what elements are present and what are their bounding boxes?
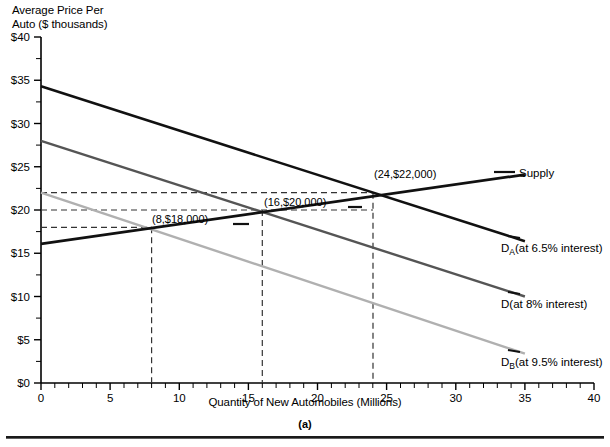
y-tick-label: $35 xyxy=(11,74,30,86)
series-label-supply: Supply xyxy=(519,167,554,179)
y-tick-label: $30 xyxy=(11,118,30,130)
x-axis-title: Quantity of New Automobiles (Millions) xyxy=(0,396,610,408)
y-tick-label: $0 xyxy=(17,377,30,389)
y-tick-label: $5 xyxy=(17,334,30,346)
leader-d xyxy=(508,292,520,294)
y-tick-label: $40 xyxy=(11,31,30,43)
y-axis-major-ticks xyxy=(34,37,41,383)
chart-plot-area: $0 $5 $10 $15 $20 $25 $30 $35 $40 xyxy=(0,0,610,447)
annotation-8-18000: (8,$18,000) xyxy=(152,213,208,225)
series-label-da: DA(at 6.5% interest) xyxy=(501,242,603,257)
series-label-db: DB(at 9.5% interest) xyxy=(501,356,603,371)
figure-panel-a: Average Price Per Auto ($ thousands) xyxy=(0,0,610,447)
series-label-d: D(at 8% interest) xyxy=(501,298,587,310)
y-tick-label: $15 xyxy=(11,247,30,259)
y-tick-label: $10 xyxy=(11,291,30,303)
data-point-annotations: (8,$18,000) (16,$20,000) (24,$22,000) xyxy=(152,168,436,225)
series-curves xyxy=(41,86,525,353)
annotation-24-22000: (24,$22,000) xyxy=(374,168,436,180)
y-tick-label: $20 xyxy=(11,204,30,216)
y-tick-label: $25 xyxy=(11,161,30,173)
bottom-divider xyxy=(6,436,604,439)
y-axis-tick-labels: $0 $5 $10 $15 $20 $25 $30 $35 $40 xyxy=(11,31,30,389)
leader-da xyxy=(508,236,520,238)
panel-caption: (a) xyxy=(0,418,610,430)
series-labels: Supply DA(at 6.5% interest) D(at 8% inte… xyxy=(501,167,603,371)
supply-curve xyxy=(41,175,525,244)
annotation-16-20000: (16,$20,000) xyxy=(264,196,326,208)
